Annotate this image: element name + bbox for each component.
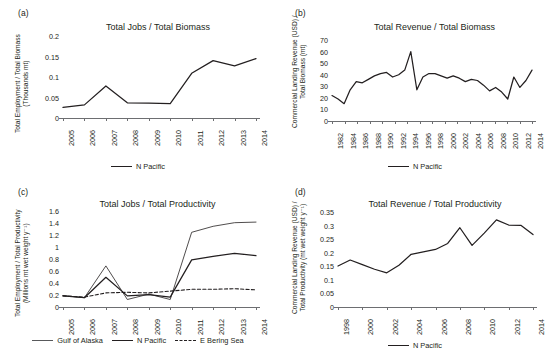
panel-b-line-n-pacific xyxy=(332,52,532,104)
panel-b-ytick-label: 40 xyxy=(298,70,328,79)
panel-c-xtick-label: 2014 xyxy=(260,311,269,335)
panel-b-xtick-label: 2012 xyxy=(524,125,533,149)
panel-a-title: Total Jobs / Total Biomass xyxy=(58,22,258,32)
panel-a-ytick-label: 0.15 xyxy=(29,52,59,61)
panel-b-ytick-label: 10 xyxy=(298,105,328,114)
panel-a-plot-area: 00.050.10.150.22005200620072008200920102… xyxy=(63,36,256,118)
panel-c-ylabel-line1: Total Employment / Total Productivity xyxy=(14,209,22,317)
panel-c-legend: Gulf of AlaskaN PacificE Bering Sea xyxy=(0,336,276,345)
panel-d-title: Total Revenue / Total Productivity xyxy=(325,199,545,209)
panel-a-ytick-label: 0.05 xyxy=(29,93,59,102)
panel-b-x-tickmark xyxy=(370,122,371,124)
panel-b-x-tickmark xyxy=(482,122,483,124)
panel-a-xtick-label: 2010 xyxy=(174,122,183,146)
panel-a-x-tickmark xyxy=(127,119,128,121)
panel-d-ytick-label: 0.1 xyxy=(304,275,334,284)
panel-d-ytick-label: 0.35 xyxy=(304,208,334,217)
panel-c-plot-area: 00.20.40.60.811.21.41.620052006200720082… xyxy=(63,211,256,307)
panel-c-line-n-pacific xyxy=(63,253,256,297)
panel-a-x-tickmark xyxy=(170,119,171,121)
panel-c-x-tickmark xyxy=(170,308,171,310)
legend-entry[interactable]: N Pacific xyxy=(111,162,165,171)
panel-c-ytick-label: 1.4 xyxy=(29,219,59,228)
legend-entry[interactable]: N Pacific xyxy=(388,341,442,350)
panel-b-x-tickmark xyxy=(407,122,408,124)
panel-a-ylabel-line1: Total Employment / Total Biomass xyxy=(14,34,22,133)
panel-c-x-tickmark xyxy=(256,308,257,310)
panel-d-ylabel-line1: Commercial Landing Revenue (USD) / xyxy=(291,201,299,314)
panel-c-xtick-label: 2009 xyxy=(153,311,162,335)
panel-d-xtick-label: 2002 xyxy=(391,311,400,335)
panel-c-x-tickmark xyxy=(235,308,236,310)
panel-d-xtick-label: 2014 xyxy=(537,311,546,335)
panel-b-xtick-label: 2006 xyxy=(486,125,495,149)
panel-b-x-tickmark xyxy=(470,122,471,124)
panel-c-x-tickmark xyxy=(63,308,64,310)
panel-b-xtick-label: 1992 xyxy=(399,125,408,149)
panel-d-x-tickmark xyxy=(387,308,388,310)
panel-b-x-tickmark xyxy=(507,122,508,124)
panel-b-x-tickmark xyxy=(345,122,346,124)
panel-a-x-axis-line xyxy=(59,118,260,119)
legend-entry[interactable]: N Pacific xyxy=(388,162,442,171)
legend-label: N Pacific xyxy=(137,336,166,345)
panel-d-xtick-label: 2006 xyxy=(440,311,449,335)
panel-b-xtick-label: 2000 xyxy=(449,125,458,149)
legend-label: N Pacific xyxy=(136,162,165,171)
panel-b-x-tickmark xyxy=(395,122,396,124)
panel-b-x-tickmark xyxy=(332,122,333,124)
legend-entry[interactable]: N Pacific xyxy=(112,336,166,345)
panel-b-ytick-label: 70 xyxy=(298,36,328,45)
panel-a-xtick-label: 2012 xyxy=(217,122,226,146)
panel-b-ytick-label: 50 xyxy=(298,59,328,68)
panel-c-x-tickmark xyxy=(84,308,85,310)
panel-a-x-tickmark xyxy=(213,119,214,121)
panel-c-ytick-label: 0.6 xyxy=(29,267,59,276)
panel-d-xtick-label: 2010 xyxy=(488,311,497,335)
panel-b-xtick-label: 1996 xyxy=(424,125,433,149)
panel-a-xtick-label: 2011 xyxy=(196,122,205,146)
panel-c-xtick-label: 2005 xyxy=(67,311,76,335)
panel-d-x-tickmark xyxy=(362,308,363,310)
panel-d-x-tickmark xyxy=(533,308,534,310)
panel-d-ytick-label: 0.2 xyxy=(304,248,334,257)
panel-a-x-tickmark xyxy=(256,119,257,121)
panel-d-ytick-label: 0.25 xyxy=(304,235,334,244)
panel-b-x-tickmark xyxy=(532,122,533,124)
panel-a-ytick-label: 0.1 xyxy=(29,73,59,82)
panel-c-x-tickmark xyxy=(192,308,193,310)
panel-a-line-n-pacific xyxy=(63,59,256,108)
panel-c-x-tickmark xyxy=(127,308,128,310)
panel-a-ytick-label: 0.2 xyxy=(29,32,59,41)
legend-entry[interactable]: E Bering Sea xyxy=(175,336,244,345)
figure-panels-container: (a) Total Jobs / Total Biomass Total Emp… xyxy=(0,0,553,362)
panel-c-xtick-label: 2013 xyxy=(239,311,248,335)
panel-a-legend: N Pacific xyxy=(0,162,276,171)
panel-d-legend: N Pacific xyxy=(277,341,553,350)
panel-a-ytick-label: 0 xyxy=(29,114,59,123)
panel-d-ytick-label: 0.3 xyxy=(304,221,334,230)
panel-a-xtick-label: 2009 xyxy=(153,122,162,146)
panel-d-ytick-label: 0 xyxy=(304,303,334,312)
panel-b-title: Total Revenue / Total Biomass xyxy=(327,22,542,32)
panel-d-xtick-label: 1998 xyxy=(342,311,351,335)
panel-a-series-layer xyxy=(63,36,256,118)
panel-c-xtick-label: 2012 xyxy=(217,311,226,335)
panel-d-x-tickmark xyxy=(484,308,485,310)
panel-d-x-tickmark xyxy=(509,308,510,310)
legend-entry[interactable]: Gulf of Alaska xyxy=(32,336,103,345)
panel-d-x-tickmark xyxy=(411,308,412,310)
legend-swatch-n-pacific-icon xyxy=(111,166,132,167)
panel-c: (c) Total Jobs / Total Productivity Tota… xyxy=(0,181,276,362)
panel-b-xtick-label: 1982 xyxy=(336,125,345,149)
panel-c-ytick-label: 0.8 xyxy=(29,255,59,264)
legend-label: E Bering Sea xyxy=(200,336,244,345)
panel-a-x-tickmark xyxy=(235,119,236,121)
panel-b-xtick-label: 1986 xyxy=(361,125,370,149)
panel-c-xtick-label: 2007 xyxy=(110,311,119,335)
panel-d-line-n-pacific xyxy=(338,220,533,273)
panel-b-ytick-label: 30 xyxy=(298,82,328,91)
panel-a-xtick-label: 2006 xyxy=(88,122,97,146)
panel-c-series-layer xyxy=(63,211,256,307)
panel-d-xtick-label: 2012 xyxy=(513,311,522,335)
